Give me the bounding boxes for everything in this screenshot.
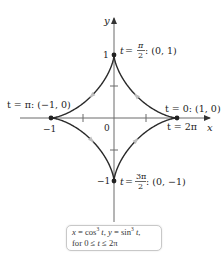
x-axis-label: x — [207, 122, 213, 133]
svg-text:=: = — [125, 176, 133, 187]
svg-text:t: t — [120, 45, 124, 56]
svg-text:: (0, −1): : (0, −1) — [146, 176, 186, 187]
label-t-2pi: t = 2π — [167, 121, 197, 132]
label-t-pi-over-2: t = π 2 : (0, 1) — [120, 41, 177, 60]
point-t3pi2 — [112, 179, 117, 184]
caption-cos: = cos — [76, 227, 97, 237]
y-axis-label: y — [103, 15, 110, 26]
tick-label-y-1: 1 — [103, 50, 109, 60]
label-t-pi: t = π: (−1, 0) — [7, 99, 71, 110]
point-tpi — [49, 116, 54, 121]
astroid-diagram: y x 0 −1 1 −1 t = π 2 : (0, 1) t = π: (−… — [0, 0, 222, 263]
point-t0 — [175, 116, 180, 121]
caption-domain-prefix: for 0 ≤ — [72, 238, 97, 248]
tick-label-x-neg-1: −1 — [43, 124, 56, 134]
equation-caption-box: x = cos3 t, y = sin3 t, for 0 ≤ t ≤ 2π — [66, 225, 162, 251]
caption-sin: = sin — [112, 227, 131, 237]
tick-label-y-neg-1: −1 — [97, 176, 110, 186]
svg-text:: (0, 1): : (0, 1) — [145, 45, 177, 56]
caption-comma: , — [138, 227, 140, 237]
point-tpi2 — [112, 53, 117, 58]
origin-label: 0 — [104, 123, 110, 133]
caption-line-1: x = cos3 t, y = sin3 t, — [72, 227, 161, 238]
caption-line-2: for 0 ≤ t ≤ 2π — [72, 238, 161, 249]
label-t-0: t = 0: (1, 0) — [165, 103, 221, 114]
svg-text:2: 2 — [138, 182, 143, 191]
label-t-3pi-over-2: t = 3π 2 : (0, −1) — [120, 172, 186, 191]
svg-text:2: 2 — [138, 51, 143, 60]
svg-text:3π: 3π — [136, 172, 146, 181]
svg-text:t: t — [120, 176, 124, 187]
caption-domain-suffix: ≤ 2π — [100, 238, 118, 248]
svg-text:=: = — [125, 45, 133, 56]
svg-text:π: π — [137, 41, 144, 50]
